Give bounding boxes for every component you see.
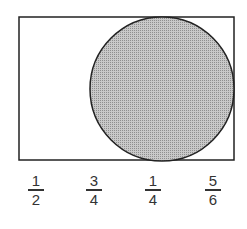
numerator: 3 xyxy=(84,174,104,188)
answer-option-1: 1 2 xyxy=(26,174,46,207)
answer-option-4: 5 6 xyxy=(203,174,223,207)
denominator: 4 xyxy=(84,193,104,207)
numerator: 1 xyxy=(26,174,46,188)
denominator: 4 xyxy=(143,193,163,207)
shaded-circle xyxy=(90,17,234,161)
numerator: 1 xyxy=(143,174,163,188)
denominator: 2 xyxy=(26,193,46,207)
answer-option-3: 1 4 xyxy=(143,174,163,207)
denominator: 6 xyxy=(203,193,223,207)
numerator: 5 xyxy=(203,174,223,188)
answer-option-2: 3 4 xyxy=(84,174,104,207)
